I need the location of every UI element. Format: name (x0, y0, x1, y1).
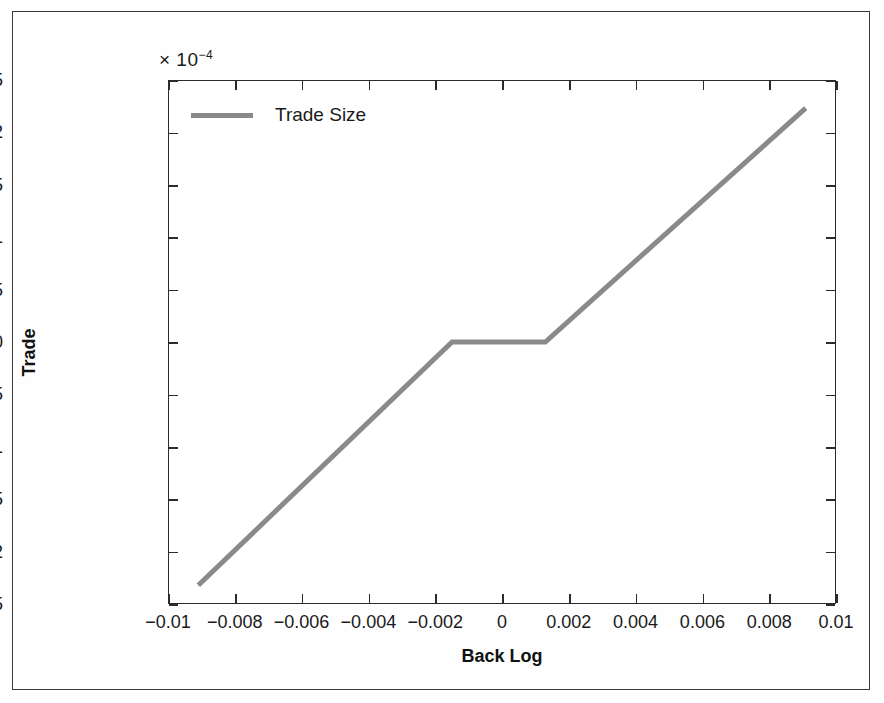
x-axis-tick-label: 0.004 (613, 612, 658, 633)
y-axis-tick-label: 2.5 (0, 70, 3, 91)
x-axis-tick-top (769, 81, 771, 90)
y-axis-tick-right (826, 342, 835, 344)
x-axis-tick-top (502, 81, 504, 90)
y-axis-tick-label: −2 (0, 541, 3, 562)
x-axis-tick-label: −0.002 (407, 612, 463, 633)
x-axis-tick (836, 594, 838, 603)
y-axis-tick (169, 499, 178, 501)
legend-label-trade-size: Trade Size (275, 104, 366, 126)
y-axis-tick (169, 552, 178, 554)
y-axis-tick-right (826, 499, 835, 501)
y-axis-tick (169, 290, 178, 292)
x-axis-title: Back Log (168, 646, 836, 667)
y-axis-tick-label: 0.5 (0, 279, 3, 300)
y-axis-tick-label: 2 (0, 122, 3, 143)
x-axis-tick-label: −0.01 (145, 612, 191, 633)
y-axis-tick-label: 1.5 (0, 174, 3, 195)
y-axis-tick-label: −2.5 (0, 594, 3, 615)
x-axis-tick-top (636, 81, 638, 90)
chart-legend: Trade Size (191, 104, 366, 126)
legend-swatch-trade-size (191, 113, 253, 118)
x-axis-tick-label: 0.008 (747, 612, 792, 633)
y-axis-tick (169, 342, 178, 344)
y-axis-tick (169, 604, 178, 606)
y-axis-tick (169, 237, 178, 239)
x-axis-tick (569, 594, 571, 603)
x-axis-tick (302, 594, 304, 603)
x-axis-tick-label: 0.01 (818, 612, 853, 633)
x-axis-tick (636, 594, 638, 603)
plot-area (168, 80, 836, 604)
y-axis-tick-right (826, 395, 835, 397)
x-axis-tick-top (369, 81, 371, 90)
y-axis-tick (169, 185, 178, 187)
x-axis-tick-label: 0.006 (680, 612, 725, 633)
x-axis-tick-label: 0 (497, 612, 507, 633)
y-axis-tick-right (826, 604, 835, 606)
x-axis-tick-label: −0.008 (207, 612, 263, 633)
x-axis-tick-label: −0.004 (341, 612, 397, 633)
exponent-power-value: −4 (199, 48, 214, 62)
x-axis-tick (369, 594, 371, 603)
y-axis-tick-right (826, 552, 835, 554)
chart-canvas (169, 81, 835, 603)
y-axis-tick (169, 395, 178, 397)
y-axis-tick (169, 133, 178, 135)
x-axis-tick-top (235, 81, 237, 90)
y-axis-tick-right (826, 80, 835, 82)
x-axis-tick-top (836, 81, 838, 90)
y-axis-tick-right (826, 237, 835, 239)
exponent-prefix: × 10 (159, 49, 199, 70)
y-axis-tick-right (826, 185, 835, 187)
x-axis-tick-label: −0.006 (274, 612, 330, 633)
y-axis-tick-label: 0 (0, 332, 3, 353)
y-axis-exponent-label: × 10−4 (159, 48, 213, 71)
x-axis-tick-top (569, 81, 571, 90)
x-axis-tick (769, 594, 771, 603)
y-axis-tick-label: −1.5 (0, 489, 3, 510)
x-axis-tick (502, 594, 504, 603)
y-axis-tick-label: −0.5 (0, 384, 3, 405)
x-axis-tick-top (302, 81, 304, 90)
series-line-trade-size (198, 108, 805, 585)
y-axis-tick-label: 1 (0, 227, 3, 248)
y-axis-tick-right (826, 133, 835, 135)
figure-outer-frame: × 10−4 Back Log Trade Trade Size −0.01−0… (12, 11, 870, 690)
y-axis-title: Trade (19, 328, 40, 376)
x-axis-tick-top (168, 81, 170, 90)
y-axis-tick-label: −1 (0, 436, 3, 457)
y-axis-tick (169, 80, 178, 82)
y-axis-tick-right (826, 290, 835, 292)
x-axis-tick (235, 594, 237, 603)
x-axis-tick (435, 594, 437, 603)
x-axis-tick-top (435, 81, 437, 90)
x-axis-tick-label: 0.002 (546, 612, 591, 633)
x-axis-tick (168, 594, 170, 603)
y-axis-tick-right (826, 447, 835, 449)
x-axis-tick (703, 594, 705, 603)
x-axis-tick-top (703, 81, 705, 90)
y-axis-tick (169, 447, 178, 449)
